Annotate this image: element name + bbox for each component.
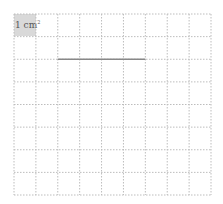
grid-lines: [0, 0, 223, 204]
